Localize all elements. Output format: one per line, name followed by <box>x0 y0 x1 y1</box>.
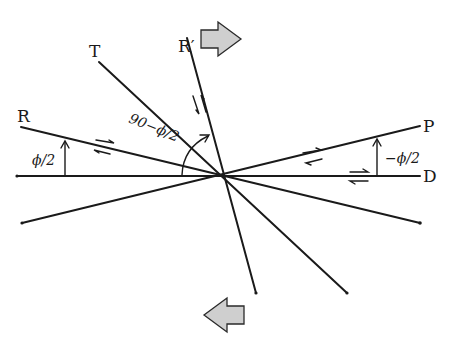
label-P: P <box>423 116 434 136</box>
lower-displacement-arrow <box>204 298 244 332</box>
half-arrow-icon <box>350 181 368 184</box>
shear-diagram: R T R′ P D ϕ/2 90−ϕ/2 −ϕ/2 <box>0 0 451 347</box>
endpoint-dot <box>418 221 422 225</box>
half-arrow-icon <box>94 150 110 154</box>
angle-label-phi-half: ϕ/2 <box>32 152 55 168</box>
label-R-prime: R′ <box>178 36 195 56</box>
half-arrow-icon <box>193 96 199 114</box>
half-arrow-icon <box>96 140 114 143</box>
endpoint-dot <box>254 291 257 294</box>
angle-label-90-minus-phi-half: 90−ϕ/2 <box>127 110 182 145</box>
half-arrow-icon <box>306 159 322 165</box>
label-T: T <box>89 41 101 61</box>
line-T <box>99 62 347 293</box>
upper-displacement-arrow <box>201 22 241 56</box>
label-R: R <box>17 106 31 126</box>
angle-label-minus-phi-half: −ϕ/2 <box>385 150 420 166</box>
endpoint-dot <box>15 174 18 177</box>
line-R-prime <box>187 38 256 293</box>
half-arrow-icon <box>350 169 368 172</box>
endpoint-dot <box>20 221 23 224</box>
endpoint-dot <box>345 291 348 294</box>
label-D: D <box>423 166 437 186</box>
